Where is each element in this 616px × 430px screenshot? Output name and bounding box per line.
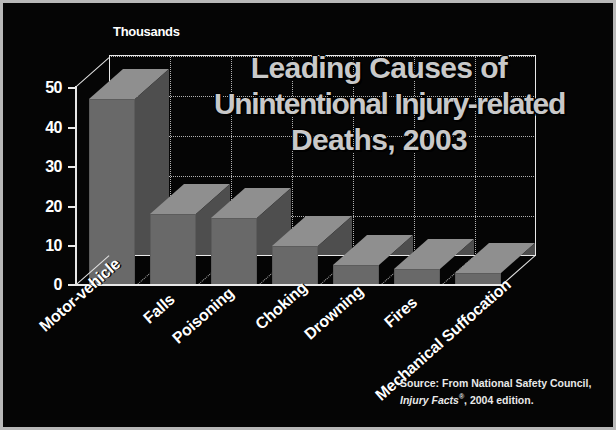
- category-label-poisoning: Poisoning: [169, 284, 238, 347]
- source-line-2-tail: , 2004 edition.: [464, 393, 533, 405]
- bar-poisoning: [211, 218, 257, 285]
- ytick-mark-40: [68, 127, 75, 129]
- category-label-fires: Fires: [381, 293, 421, 331]
- chart-title-line-2: Unintentional Injury-related: [214, 86, 544, 122]
- bar-front-face: [394, 269, 440, 285]
- category-label-falls: Falls: [140, 291, 179, 328]
- ytick-label-20: 20: [28, 198, 62, 216]
- source-publication: Injury Facts: [400, 393, 459, 405]
- chart-figure: 50 40 30 20 10 0 Thousands Motor-vehicle…: [0, 0, 616, 430]
- axis-y-front: [75, 86, 77, 286]
- ytick-label-10: 10: [28, 237, 62, 255]
- bar-front-face: [211, 218, 257, 285]
- bar-falls: [150, 214, 196, 285]
- gridline-h-20: [109, 176, 536, 177]
- ytick-label-30: 30: [28, 158, 62, 176]
- bar-front-face: [150, 214, 196, 285]
- y-axis-unit-label: Thousands: [113, 24, 180, 39]
- ytick-mark-30: [68, 166, 75, 168]
- ytick-label-0: 0: [28, 276, 62, 294]
- category-label-motor-vehicle: Motor-vehicle: [36, 255, 124, 336]
- bar-front-face: [333, 265, 379, 285]
- chart-title-line-3: Deaths, 2003: [214, 122, 544, 158]
- ytick-label-50: 50: [28, 79, 62, 97]
- source-note: Source: From National Safety Council, In…: [400, 376, 600, 407]
- chart-title-line-1: Leading Causes of: [214, 50, 544, 86]
- bar-fires: [394, 269, 440, 285]
- ytick-mark-10: [68, 245, 75, 247]
- category-label-choking: Choking: [252, 279, 311, 334]
- bar-drowning: [333, 265, 379, 285]
- bar-choking: [272, 246, 318, 285]
- source-line-2: Injury Facts®, 2004 edition.: [400, 390, 600, 407]
- chart-title: Leading Causes of Unintentional Injury-r…: [214, 50, 544, 158]
- ytick-mark-20: [68, 206, 75, 208]
- source-line-1: Source: From National Safety Council,: [400, 376, 600, 390]
- ytick-mark-50: [68, 87, 75, 89]
- ytick-mark-0: [68, 284, 75, 286]
- axis-x-front: [75, 284, 501, 286]
- bar-front-face: [272, 246, 318, 285]
- ytick-label-40: 40: [28, 119, 62, 137]
